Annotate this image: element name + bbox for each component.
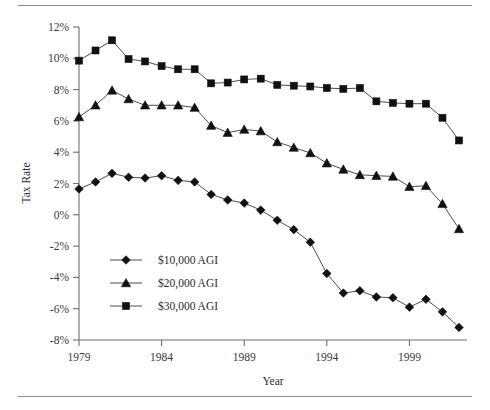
- x-axis-tick-label: 1979: [68, 351, 91, 363]
- y-axis: 12%10%8%6%4%2%0%-2%-4%-6%-8%: [48, 21, 79, 346]
- square-marker: [224, 79, 231, 86]
- diamond-marker: [240, 199, 249, 208]
- square-marker: [142, 58, 149, 65]
- triangle-marker: [240, 125, 249, 133]
- square-marker: [175, 66, 182, 73]
- diamond-marker: [207, 190, 216, 199]
- triangle-marker: [306, 148, 315, 156]
- square-marker: [274, 81, 281, 88]
- square-marker: [307, 83, 314, 90]
- triangle-marker: [107, 86, 116, 94]
- legend-item-label: $10,000 AGI: [158, 254, 218, 267]
- triangle-marker: [322, 159, 331, 167]
- diamond-marker: [372, 293, 381, 302]
- triangle-marker: [421, 181, 430, 189]
- diamond-marker: [141, 174, 150, 183]
- diamond-marker: [289, 225, 298, 234]
- diamond-marker: [422, 295, 431, 304]
- square-marker: [323, 85, 330, 92]
- square-marker: [257, 75, 264, 82]
- chart-legend: $10,000 AGI$20,000 AGI$30,000 AGI: [110, 254, 218, 313]
- square-marker: [109, 37, 116, 44]
- triangle-marker: [339, 165, 348, 173]
- x-axis-tick-label: 1984: [150, 351, 173, 363]
- square-marker: [290, 82, 297, 89]
- diamond-marker: [389, 293, 398, 302]
- square-marker: [439, 114, 446, 121]
- diamond-marker: [157, 171, 166, 180]
- square-marker: [241, 76, 248, 83]
- diamond-marker: [273, 216, 282, 225]
- y-axis-tick-label: -4%: [50, 271, 70, 283]
- x-axis-tick-label: 1989: [233, 351, 256, 363]
- x-axis-title: Year: [262, 375, 283, 387]
- y-axis-tick-label: 12%: [48, 21, 70, 33]
- triangle-marker: [74, 112, 83, 120]
- triangle-marker: [355, 170, 364, 178]
- series-line: [79, 40, 459, 140]
- triangle-marker: [273, 137, 282, 145]
- square-marker: [158, 63, 165, 70]
- y-axis-tick-labels: 12%10%8%6%4%2%0%-2%-4%-6%-8%: [48, 21, 70, 346]
- diamond-marker: [306, 238, 315, 247]
- square-marker: [373, 98, 380, 105]
- series-diamond: [75, 169, 464, 332]
- diamond-marker: [405, 303, 414, 312]
- legend-item[interactable]: $10,000 AGI: [110, 254, 218, 267]
- y-axis-tick-label: 0%: [54, 209, 70, 221]
- triangle-marker: [454, 224, 463, 232]
- y-axis-tick-label: 4%: [54, 146, 70, 158]
- y-axis-tick-label: 10%: [48, 52, 70, 64]
- triangle-marker: [124, 94, 133, 102]
- square-marker: [208, 80, 215, 87]
- triangle-marker: [289, 143, 298, 151]
- series-line: [79, 90, 459, 229]
- y-axis-tick-label: -2%: [50, 240, 70, 252]
- tax-rate-line-chart: 12%10%8%6%4%2%0%-2%-4%-6%-8% 19791984198…: [0, 0, 490, 410]
- square-marker: [123, 303, 130, 310]
- series-triangle: [74, 86, 463, 233]
- x-axis-tick-label: 1994: [315, 351, 338, 363]
- y-axis-ticks: [73, 27, 79, 340]
- diamond-marker: [223, 196, 232, 205]
- diamond-marker: [108, 169, 117, 178]
- y-axis-tick-label: 8%: [54, 84, 70, 96]
- y-axis-title: Tax Rate: [20, 162, 32, 203]
- series-line: [79, 173, 459, 327]
- legend-item-label: $30,000 AGI: [158, 300, 218, 313]
- square-marker: [422, 100, 429, 107]
- diamond-marker: [75, 185, 84, 194]
- square-marker: [92, 47, 99, 54]
- diamond-marker: [91, 178, 100, 187]
- y-axis-tick-label: -8%: [50, 334, 70, 346]
- square-marker: [389, 99, 396, 106]
- square-marker: [340, 85, 347, 92]
- legend-item[interactable]: $30,000 AGI: [110, 300, 218, 313]
- diamond-marker: [174, 176, 183, 185]
- square-marker: [406, 100, 413, 107]
- legend-item[interactable]: $20,000 AGI: [110, 277, 218, 290]
- chart-svg: 12%10%8%6%4%2%0%-2%-4%-6%-8% 19791984198…: [0, 0, 490, 410]
- x-axis-ticks: [79, 340, 409, 346]
- diamond-marker: [124, 173, 133, 182]
- y-axis-tick-label: 6%: [54, 115, 70, 127]
- square-marker: [76, 57, 83, 64]
- square-marker: [456, 137, 463, 144]
- y-axis-tick-label: -6%: [50, 303, 70, 315]
- x-axis: 19791984198919941999: [68, 340, 468, 363]
- diamond-marker: [122, 256, 131, 265]
- y-axis-tick-label: 2%: [54, 178, 70, 190]
- series-square: [76, 37, 463, 144]
- x-axis-tick-labels: 19791984198919941999: [68, 351, 422, 363]
- data-series-group: [74, 37, 463, 332]
- diamond-marker: [356, 286, 365, 295]
- x-axis-tick-label: 1999: [398, 351, 421, 363]
- diamond-marker: [256, 206, 265, 215]
- diamond-marker: [190, 178, 199, 187]
- square-marker: [356, 85, 363, 92]
- legend-item-label: $20,000 AGI: [158, 277, 218, 290]
- square-marker: [125, 56, 132, 63]
- square-marker: [191, 66, 198, 73]
